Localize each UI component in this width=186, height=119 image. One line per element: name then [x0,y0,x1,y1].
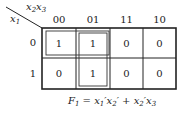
kmap-cell: 0 [110,28,143,58]
equation: F1 = x1′x2′ + x2′x3 [68,95,156,108]
col-header: 01 [76,15,110,25]
row-header: 0 [28,38,38,48]
col-variable-label: x2x3 [26,2,46,15]
row-variable-label: x1 [10,14,20,27]
kmap-cell: 1 [76,28,110,58]
row-header: 1 [28,69,38,79]
col-header: 10 [143,15,176,25]
kmap-cell: 1 [76,58,110,88]
kmap-cell: 0 [143,58,176,88]
kmap-cell: 0 [42,58,76,88]
kmap-cell: 1 [42,28,76,58]
col-header: 11 [110,15,143,25]
kmap-cell: 0 [143,28,176,58]
col-header: 00 [42,15,76,25]
kmap-cell: 0 [110,58,143,88]
